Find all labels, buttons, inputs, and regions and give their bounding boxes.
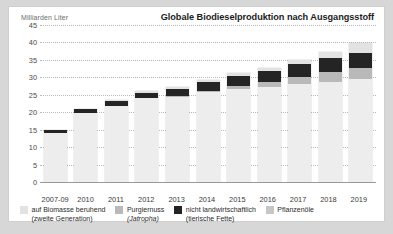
chart-legend: auf Biomasse beruhend(zweite Generation)… (20, 205, 376, 223)
bar-slot-2014 (193, 25, 224, 182)
bar-segment (258, 87, 281, 182)
bar-segment (135, 98, 158, 182)
bar-segment (319, 72, 342, 81)
bar-segment (105, 106, 128, 182)
bar-segment (288, 77, 311, 85)
bar-segment (197, 82, 220, 90)
gridline-0 (40, 182, 376, 183)
y-tick-45: 45 (29, 21, 37, 30)
stacked-bar[interactable] (74, 109, 97, 182)
bar-segment (349, 68, 372, 80)
bar-segment (197, 92, 220, 182)
bar-slot-2010 (71, 25, 102, 182)
bar-segment (258, 71, 281, 82)
bar-segment (166, 89, 189, 96)
y-tick-35: 35 (29, 55, 37, 64)
y-tick-40: 40 (29, 38, 37, 47)
y-axis-tick-labels: 051015202530354045 (21, 25, 37, 193)
bar-slot-2018 (315, 25, 346, 182)
bar-slot-2017 (284, 25, 315, 182)
chart-title: Globale Biodieselproduktion nach Ausgang… (161, 12, 374, 22)
legend-swatch-icon (174, 206, 182, 214)
y-tick-25: 25 (29, 90, 37, 99)
legend-item-biomasse[interactable]: auf Biomasse beruhend(zweite Generation) (20, 205, 105, 223)
legend-label: nicht landwirtschaftlich(tierische Fette… (186, 205, 256, 223)
y-tick-10: 10 (29, 143, 37, 152)
bar-slot-2019 (345, 25, 376, 182)
bar-segment (288, 64, 311, 77)
y-tick-30: 30 (29, 73, 37, 82)
legend-swatch-icon (115, 206, 123, 214)
bar-slot-2013 (162, 25, 193, 182)
y-tick-15: 15 (29, 125, 37, 134)
chart-panel: Milliarden Liter Globale Biodieselproduk… (8, 6, 385, 222)
bar-slot-2012 (132, 25, 163, 182)
legend-swatch-icon (266, 206, 274, 214)
stacked-bar[interactable] (319, 52, 342, 182)
stacked-bar[interactable] (135, 91, 158, 182)
bar-segment (349, 43, 372, 52)
stacked-bar[interactable] (166, 87, 189, 182)
legend-label: Pflanzenöle (277, 205, 314, 214)
legend-item-purgiernuss[interactable]: Purgiernuss(Jatropha) (115, 205, 164, 223)
legend-label: Purgiernuss(Jatropha) (127, 205, 164, 223)
plot-area: 051015202530354045 (21, 25, 376, 193)
bar-segment (288, 84, 311, 182)
bar-segment (227, 76, 250, 86)
bar-slot-2016 (254, 25, 285, 182)
legend-label: auf Biomasse beruhend(zweite Generation) (32, 205, 106, 223)
stacked-bar[interactable] (105, 100, 128, 182)
stacked-bar[interactable] (258, 68, 281, 182)
y-tick-20: 20 (29, 108, 37, 117)
stacked-bar[interactable] (349, 43, 372, 182)
legend-swatch-icon (20, 206, 28, 214)
bar-segment (349, 79, 372, 182)
y-tick-0: 0 (33, 178, 37, 187)
legend-item-pflanzenoele[interactable]: Pflanzenöle (266, 205, 314, 214)
bar-segment (319, 58, 342, 72)
stacked-bar[interactable] (227, 73, 250, 182)
bar-segment (319, 82, 342, 182)
bar-segment (74, 113, 97, 182)
bar-slot-2007-09 (40, 25, 71, 182)
bar-segment (44, 133, 67, 182)
stacked-bar[interactable] (288, 60, 311, 182)
bar-series-group (40, 25, 376, 182)
legend-item-nicht_landwirtschaftlich[interactable]: nicht landwirtschaftlich(tierische Fette… (174, 205, 256, 223)
bar-segment (349, 53, 372, 68)
stacked-bar[interactable] (44, 130, 67, 182)
bar-slot-2015 (223, 25, 254, 182)
bar-segment (227, 89, 250, 182)
bar-segment (166, 97, 189, 182)
y-tick-5: 5 (33, 160, 37, 169)
stacked-bar[interactable] (197, 80, 220, 182)
bar-slot-2011 (101, 25, 132, 182)
